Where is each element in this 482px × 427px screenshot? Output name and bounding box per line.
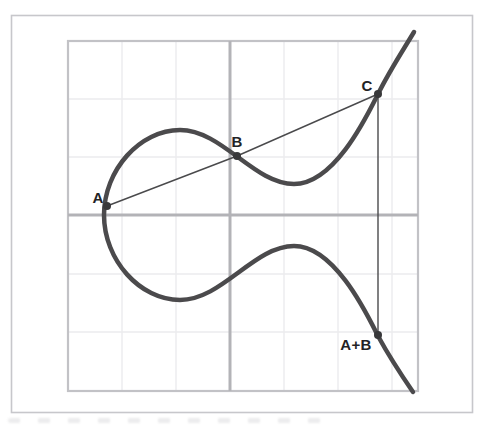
point-C <box>374 90 382 98</box>
point-label-A: A <box>92 189 103 206</box>
point-label-B: B <box>231 133 242 150</box>
elliptic-curve-figure: ABCA+B <box>0 0 482 427</box>
scan-artifact <box>8 418 338 423</box>
figure-canvas: ABCA+B <box>0 0 482 427</box>
point-A <box>103 202 111 210</box>
point-label-C: C <box>361 77 372 94</box>
point-B <box>233 152 241 160</box>
point-A+B <box>374 331 382 339</box>
point-label-A+B: A+B <box>340 336 371 353</box>
